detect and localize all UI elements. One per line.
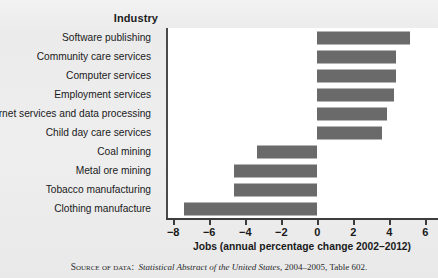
- x-axis-tick-label: 0: [314, 226, 320, 238]
- bar: [317, 126, 382, 139]
- bar: [317, 31, 411, 44]
- bar-row: [168, 180, 438, 199]
- category-label: Computer services: [0, 66, 158, 85]
- category-label: Metal ore mining: [0, 161, 158, 180]
- category-label: Employment services: [0, 85, 158, 104]
- x-axis-tick: [353, 218, 354, 225]
- x-axis-tick-label: −8: [167, 226, 180, 238]
- category-label: Coal mining: [0, 142, 158, 161]
- category-label: Community care services: [0, 47, 158, 66]
- x-axis-title: Jobs (annual percentage change 2002–2012…: [166, 241, 438, 252]
- x-axis-tick: [173, 218, 174, 225]
- bar: [317, 107, 387, 120]
- bar-rows: [168, 28, 438, 218]
- x-axis-tick: [317, 218, 318, 225]
- bar-row: [168, 199, 438, 218]
- bar-row: [168, 161, 438, 180]
- x-axis-tick-label: 6: [422, 226, 428, 238]
- source-label: Source of data:: [71, 262, 134, 272]
- category-label: Software publishing: [0, 28, 158, 47]
- x-axis-tick-label: −2: [275, 226, 288, 238]
- plot-area: [166, 28, 438, 218]
- source-note: Source of data: Statistical Abstract of …: [0, 262, 438, 272]
- source-detail: , 2004–2005, Table 602.: [280, 262, 367, 272]
- bar-row: [168, 28, 438, 47]
- category-label: Internet services and data processing: [0, 104, 158, 123]
- x-axis-tick-label: −6: [203, 226, 216, 238]
- x-axis-tick: [389, 218, 390, 225]
- category-label: Tobacco manufacturing: [0, 180, 158, 199]
- x-axis-line: [166, 218, 438, 220]
- x-axis-tick: [425, 218, 426, 225]
- bar-chart-figure: Industry Software publishingCommunity ca…: [0, 0, 438, 278]
- bar: [317, 50, 396, 63]
- bar: [234, 183, 317, 196]
- industry-column-header: Industry: [0, 12, 158, 24]
- bar-row: [168, 142, 438, 161]
- x-axis-tick: [209, 218, 210, 225]
- x-axis-tick-label: 2: [350, 226, 356, 238]
- x-axis-tick-label: 4: [386, 226, 392, 238]
- bar: [317, 88, 394, 101]
- bar: [184, 202, 317, 215]
- bar-row: [168, 85, 438, 104]
- category-label: Clothing manufacture: [0, 199, 158, 218]
- bar-row: [168, 66, 438, 85]
- bar-row: [168, 104, 438, 123]
- category-label: Child day care services: [0, 123, 158, 142]
- category-label-column: Software publishingCommunity care servic…: [0, 28, 158, 218]
- bar-row: [168, 47, 438, 66]
- bar-row: [168, 123, 438, 142]
- x-axis-tick-label: −4: [239, 226, 252, 238]
- bar: [234, 164, 317, 177]
- bar: [257, 145, 316, 158]
- x-axis-tick: [281, 218, 282, 225]
- x-axis-tick: [245, 218, 246, 225]
- bar: [317, 69, 396, 82]
- source-title: Statistical Abstract of the United State…: [139, 262, 281, 272]
